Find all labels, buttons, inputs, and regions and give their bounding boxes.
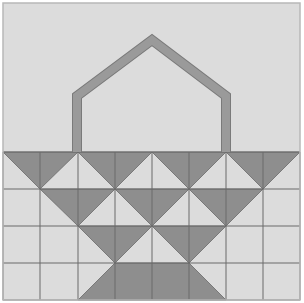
quilt-block-svg [0, 0, 304, 303]
quilt-block-figure: Basket quilt block [0, 0, 304, 303]
